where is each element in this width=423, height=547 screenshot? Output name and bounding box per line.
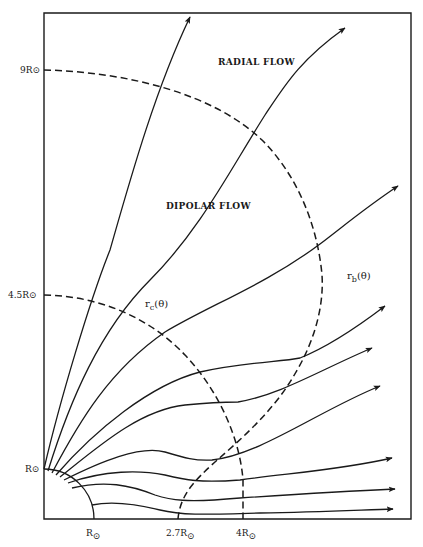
rc-argument: (θ) [154,298,168,309]
field-line-1 [44,17,190,469]
sun-disc [44,469,94,519]
bottom-label-r: R⊙ [86,527,100,539]
left-label-4-5r-value: 4.5R [8,290,29,300]
sun-symbol-icon: ⊙ [33,65,41,75]
rc-theta-label: rc(θ) [145,298,168,314]
outer-boundary-rb [44,70,322,519]
field-lines [44,17,398,514]
left-label-9r: 9R⊙ [20,64,40,76]
bottom-label-4r: 4R⊙ [236,527,256,539]
field-line-6 [64,386,380,480]
bottom-label-2-7r-value: 2.7R [166,528,187,538]
field-line-3 [52,186,398,473]
frame [44,13,411,519]
field-line-7 [68,458,392,483]
sun-symbol-icon: ⊙ [249,531,257,541]
sun-symbol-icon: ⊙ [29,290,37,300]
bottom-label-2-7r: 2.7R⊙ [166,527,195,539]
left-label-r-value: R [25,464,32,474]
bottom-label-4r-value: 4R [236,528,249,538]
left-label-4-5r: 4.5R⊙ [8,289,37,301]
field-line-8 [72,484,395,501]
dashed-boundaries [44,70,322,519]
bottom-label-r-value: R [86,528,93,538]
sun-symbol-icon: ⊙ [93,531,101,541]
field-line-4 [56,306,385,475]
sun-symbol-icon: ⊙ [187,531,195,541]
sun-symbol-icon: ⊙ [32,464,40,474]
dipolar-flow-label: DIPOLAR FLOW [166,200,251,212]
inner-boundary-rc [44,295,243,519]
rb-theta-label: rb(θ) [347,270,371,286]
left-label-r: R⊙ [25,463,39,475]
rb-argument: (θ) [357,270,371,281]
left-label-9r-value: 9R [20,65,33,75]
radial-flow-label: RADIAL FLOW [218,56,295,68]
